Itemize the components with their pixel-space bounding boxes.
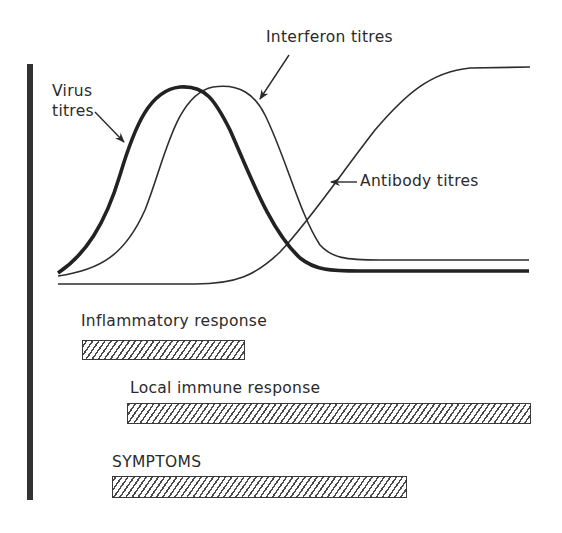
symptoms-bar: [112, 476, 407, 498]
virus-label-line2: titres: [52, 104, 94, 120]
inflammatory-response-label: Inflammatory response: [81, 314, 267, 330]
virus-arrow: [95, 112, 124, 142]
virus-label-line1: Virus: [52, 84, 92, 100]
y-axis-bar: [27, 64, 33, 500]
interferon-label: Interferon titres: [266, 30, 393, 46]
antibody-label: Antibody titres: [360, 174, 479, 190]
titre-time-diagram: [0, 0, 562, 533]
interferon-arrow: [260, 55, 289, 99]
local-immune-response-bar: [127, 403, 531, 424]
symptoms-label: SYMPTOMS: [112, 455, 201, 471]
local-immune-response-label: Local immune response: [130, 381, 320, 397]
inflammatory-response-bar: [82, 340, 245, 360]
